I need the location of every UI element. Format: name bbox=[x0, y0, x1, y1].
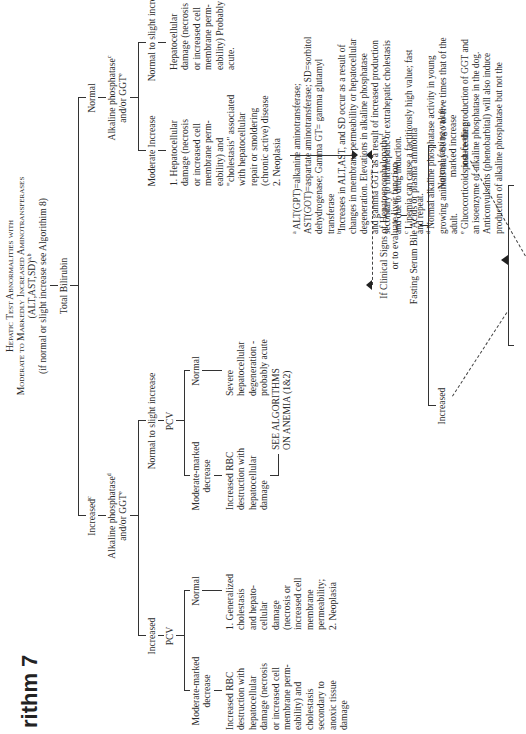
branch-bar bbox=[138, 421, 139, 636]
footnote-mark: e bbox=[117, 73, 123, 76]
node-alp-normal-slight: Normal to slight increase bbox=[146, 361, 157, 481]
branch-bar bbox=[184, 371, 185, 476]
result-right-moderate-increase: 1. Hepatocellular damage (necrosis or in… bbox=[168, 95, 282, 186]
branch-bar bbox=[184, 591, 185, 691]
root-node-total-bilirubin: Total Bilirubin bbox=[58, 236, 69, 336]
footnote-a: a ALT(GPT)=alkanine aminotransferase; AS… bbox=[292, 37, 337, 234]
node-right-normal-slight: Normal to slight increase bbox=[146, 0, 157, 93]
label: Alkaline phosphatase bbox=[106, 58, 117, 140]
connector bbox=[176, 635, 184, 636]
footnotes: a ALT(GPT)=alkanine aminotransferase; AS… bbox=[292, 37, 505, 234]
footnote-text: Lipemia can cause a factitiously high va… bbox=[404, 50, 425, 234]
see-anemia-algorithms: SEE ALGORITHMS ON ANEMIA (1&2) bbox=[270, 368, 293, 450]
footnote-text: Glucocorticoids induce the production of… bbox=[460, 39, 504, 234]
footnote-mark: d bbox=[425, 231, 431, 234]
connector bbox=[70, 285, 78, 286]
title-line-3: (ALT,AST,SD)a,b bbox=[26, 136, 37, 436]
footnote-d: d Normal alkaline phosphatase activity i… bbox=[426, 37, 460, 234]
connector bbox=[214, 475, 222, 476]
footnote-mark: a bbox=[291, 231, 297, 234]
dashed-converge-left bbox=[452, 312, 507, 396]
label: Increased bbox=[86, 499, 97, 536]
connector bbox=[214, 690, 222, 691]
node-pcv2-moderate-decrease: Moderate-marked decrease bbox=[190, 431, 213, 521]
algorithm-number-label: rithm 7 bbox=[18, 655, 42, 728]
connector bbox=[130, 97, 138, 98]
branch-bar bbox=[428, 226, 429, 406]
arrow-up-icon bbox=[501, 255, 508, 265]
title-abbrev: (ALT,AST,SD) bbox=[26, 261, 37, 319]
footnote-e: e Glucocorticoids induce the production … bbox=[460, 37, 505, 234]
connector bbox=[78, 515, 86, 516]
result-pcv2-normal: Severe hepatocellular degeneration - pro… bbox=[224, 339, 270, 396]
connector bbox=[176, 420, 184, 421]
title-line-1: Hepatic Test Abnormalities with bbox=[4, 136, 15, 436]
title-line-4: (if normal or slight increase see Algori… bbox=[37, 136, 48, 436]
footnote-b: bIncreases in ALT,AST, and SD occur as a… bbox=[337, 37, 404, 234]
node-pcv2-normal: Normal bbox=[190, 341, 201, 401]
connector bbox=[202, 590, 222, 591]
title-footnote-mark: a,b bbox=[26, 253, 32, 260]
footnote-mark: d bbox=[106, 473, 112, 476]
branch-bar bbox=[138, 43, 139, 151]
connector bbox=[508, 345, 514, 346]
label: and/or GGT bbox=[117, 76, 128, 123]
node-alk-phos-left: Alkaline phosphatased bbox=[106, 456, 117, 576]
connector bbox=[270, 475, 278, 476]
node-alk-phos-left-line2: and/or GGTe bbox=[117, 456, 128, 576]
footnote-mark: c bbox=[86, 496, 92, 499]
footnote-text: ALT(GPT)=alkanine aminotransferase; AST(… bbox=[292, 37, 336, 234]
convergence-bar bbox=[508, 186, 509, 346]
result-right-normal-slight: Hepatocellular damage (necrosis or incre… bbox=[168, 1, 236, 70]
footnote-mark: e bbox=[117, 491, 123, 494]
connector bbox=[98, 97, 106, 98]
connector bbox=[98, 515, 106, 516]
title-line-2: Moderate to Markedly Increased Aminotran… bbox=[15, 136, 26, 436]
connector bbox=[278, 454, 279, 476]
branch-bar bbox=[78, 98, 79, 516]
connector bbox=[508, 185, 514, 186]
connector bbox=[50, 285, 58, 286]
connector bbox=[428, 405, 436, 406]
node-pcv-1: PCV bbox=[164, 606, 175, 666]
label: Alkaline phosphatase bbox=[106, 476, 117, 558]
connector bbox=[158, 42, 166, 43]
result-pcv1-normal: 1. Generalized cholestasis and hepato- c… bbox=[224, 574, 338, 630]
footnote-c: c Lipemia can cause a factitiously high … bbox=[404, 37, 426, 234]
connector bbox=[158, 150, 166, 151]
node-alk-phos-right-line2: and/or GGTe bbox=[117, 38, 128, 158]
result-pcv2-moderate-decrease: Increased RBC destruction with hepatocel… bbox=[224, 448, 270, 510]
node-pcv-2: PCV bbox=[164, 391, 175, 451]
node-bilirubin-increased: Increasedc bbox=[86, 476, 97, 556]
arrow-up-icon bbox=[366, 280, 372, 290]
node-right-moderate-increase: Moderate Increase bbox=[146, 101, 157, 201]
connector bbox=[138, 420, 146, 421]
footnote-mark: c bbox=[403, 231, 409, 234]
connector bbox=[138, 150, 146, 151]
connector bbox=[138, 42, 146, 43]
node-pcv1-moderate-decrease: Moderate-marked decrease bbox=[190, 646, 213, 734]
node-bile-increased: Increased bbox=[436, 371, 447, 441]
connector bbox=[130, 515, 138, 516]
footnote-mark: e bbox=[459, 231, 465, 234]
connector bbox=[138, 635, 146, 636]
footnote-mark: b bbox=[336, 231, 342, 234]
footnote-text: Normal alkaline phosphatase activity in … bbox=[426, 37, 458, 234]
node-alk-phos-right: Alkaline phosphatasec bbox=[106, 38, 117, 158]
footnote-mark: c bbox=[106, 56, 112, 59]
connector bbox=[202, 370, 222, 371]
node-alp-increased: Increased bbox=[146, 596, 157, 676]
node-pcv1-normal: Normal bbox=[190, 561, 201, 621]
result-pcv1-moderate-decrease: Increased RBC destruction with hepatocel… bbox=[224, 663, 349, 730]
footnote-text: Increases in ALT,AST, and SD occur as a … bbox=[337, 39, 403, 234]
connector bbox=[78, 97, 86, 98]
node-bilirubin-normal: Normal bbox=[86, 68, 97, 128]
label: and/or GGT bbox=[117, 494, 128, 541]
